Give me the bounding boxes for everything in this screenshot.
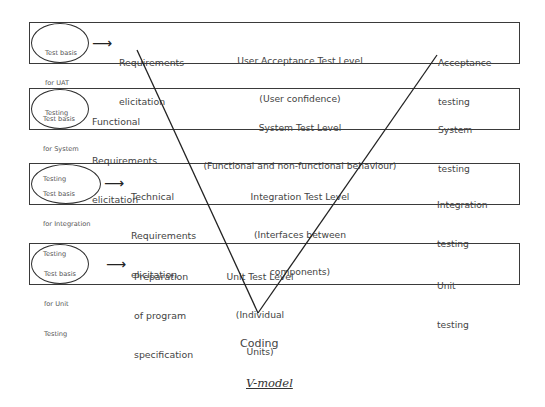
testing-label-unit: Unit testing <box>437 253 469 357</box>
test-basis-line: Test basis <box>44 269 76 279</box>
testing-line: Integration <box>437 198 488 211</box>
diagram-title: V-model <box>246 376 293 390</box>
test-basis-line: for UAT <box>45 78 77 88</box>
requirement-line: Requirements <box>131 229 196 242</box>
requirement-line: Technical <box>131 190 196 203</box>
requirement-label-unit: Preparation of program specification <box>134 244 193 387</box>
test-basis-line: for Unit <box>44 299 76 309</box>
test-basis-line: for System <box>43 144 79 154</box>
test-basis-line: Test basis <box>43 189 91 199</box>
test-level-line: (Individual <box>215 309 305 322</box>
requirement-line: specification <box>134 348 193 361</box>
test-basis-line: Testing <box>44 329 76 339</box>
requirement-line: Preparation <box>134 270 193 283</box>
test-level-line: Integration Test Level <box>215 191 385 204</box>
test-level-line: System Test Level <box>170 122 430 135</box>
test-basis-line: Test basis <box>45 48 77 58</box>
coding-label: Coding <box>240 337 278 350</box>
v-model-diagram: Test basis for UAT Testing ⟶ Requirement… <box>0 0 545 407</box>
arrow-right-icon: ⟶ <box>92 36 112 50</box>
testing-line: Acceptance <box>438 56 491 69</box>
test-level-line: (Interfaces between <box>215 229 385 242</box>
arrow-right-icon: ⟶ <box>104 176 124 190</box>
requirement-line: of program <box>134 309 193 322</box>
testing-line: testing <box>437 318 469 331</box>
testing-line: System <box>438 123 472 136</box>
test-level-line: User Acceptance Test Level <box>200 55 400 68</box>
requirement-line: Functional <box>92 115 157 128</box>
testing-line: Unit <box>437 279 469 292</box>
test-basis-label-unit: Test basis for Unit Testing <box>44 249 76 359</box>
test-basis-line: for Integration <box>43 219 91 229</box>
test-level-line: Unit Test Level <box>215 271 305 284</box>
requirement-line: Requirements <box>119 56 184 69</box>
arrow-right-icon: ⟶ <box>106 257 126 271</box>
test-basis-line: Test basis <box>43 114 79 124</box>
test-level-label-unit: Unit Test Level (Individual Units) <box>215 246 305 384</box>
